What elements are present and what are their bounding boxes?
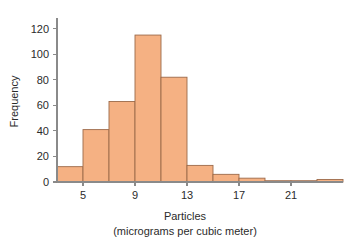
histogram-bar — [83, 130, 109, 182]
y-tick-label: 100 — [31, 48, 49, 60]
x-tick-label: 13 — [181, 189, 193, 201]
y-tick-label: 20 — [37, 150, 49, 162]
histogram-figure: 020406080100120 59131721 Frequency Parti… — [0, 0, 353, 239]
histogram-bar — [161, 77, 187, 182]
y-tick-label: 40 — [37, 125, 49, 137]
y-axis-title: Frequency — [8, 75, 20, 127]
y-tick-label: 80 — [37, 74, 49, 86]
histogram-bar — [213, 174, 239, 182]
x-tick-label: 5 — [80, 189, 86, 201]
y-tick-label: 120 — [31, 23, 49, 35]
x-tick-label: 17 — [233, 189, 245, 201]
x-tick-label: 21 — [285, 189, 297, 201]
histogram-bar — [135, 35, 161, 182]
x-tick-label: 9 — [132, 189, 138, 201]
y-tick-label: 0 — [43, 176, 49, 188]
x-axis-subtitle: (micrograms per cubic meter) — [113, 225, 257, 237]
y-tick-label: 60 — [37, 99, 49, 111]
histogram-bar — [187, 165, 213, 182]
histogram-bar — [239, 178, 265, 182]
histogram-bar — [57, 167, 83, 182]
x-axis-title: Particles — [164, 210, 207, 222]
histogram-bar — [109, 102, 135, 183]
